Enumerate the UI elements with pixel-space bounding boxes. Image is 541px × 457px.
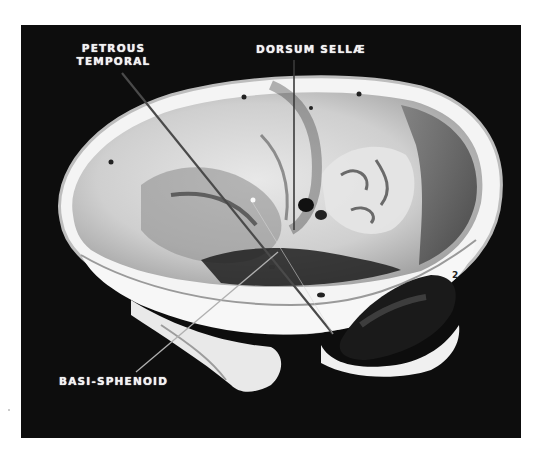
label-basi-sphenoid: BASI-SPHENOID (59, 375, 168, 388)
numeral-mark: 2 (452, 269, 459, 282)
label-petrous-temporal: PETROUS TEMPORAL (71, 42, 156, 68)
label-petrous-line2: TEMPORAL (71, 55, 156, 68)
label-dorsum-sellae: DORSUM SELLÆ (256, 43, 366, 56)
skull-photograph: PETROUS TEMPORAL DORSUM SELLÆ BASI-SPHEN… (21, 25, 521, 438)
dust-speck (8, 409, 10, 411)
label-petrous-line1: PETROUS (71, 42, 156, 55)
